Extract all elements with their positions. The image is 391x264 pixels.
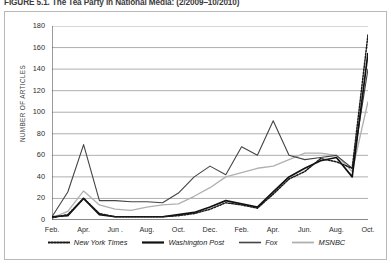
- legend-swatch-msnbc: [292, 239, 314, 246]
- x-tick-label: Jun .: [98, 225, 132, 234]
- x-tick-label: Apr.: [67, 225, 101, 234]
- x-tick-label: Aug.: [319, 225, 353, 234]
- legend-swatch-fox: [239, 239, 261, 246]
- figure-container: FIGURE 5.1. The Tea Party in National Me…: [0, 0, 391, 264]
- x-tick-label: Jun.: [288, 225, 322, 234]
- chart-legend: New York TimesWashington PostFoxMSNBC: [5, 234, 388, 250]
- legend-item: Washington Post: [142, 238, 224, 247]
- legend-item: MSNBC: [292, 238, 345, 247]
- y-tick-label: 160: [19, 44, 45, 52]
- y-tick-label: 180: [19, 22, 45, 30]
- y-tick-label: 80: [19, 130, 45, 138]
- series-line-new-york-times: [52, 35, 368, 218]
- y-tick-label: 120: [19, 87, 45, 95]
- x-tick-label: Oct.: [161, 225, 195, 234]
- legend-label: Fox: [265, 238, 277, 247]
- y-tick-label: 100: [19, 108, 45, 116]
- plot-area: [52, 26, 368, 220]
- x-tick-label: Oct.: [351, 225, 385, 234]
- x-tick-label: Apr.: [256, 225, 290, 234]
- line-chart-svg: [52, 26, 368, 220]
- figure-caption: FIGURE 5.1. The Tea Party in National Me…: [4, 0, 387, 10]
- x-tick-label: Feb.: [225, 225, 259, 234]
- x-tick-label: Aug.: [130, 225, 164, 234]
- y-tick-label: 140: [19, 65, 45, 73]
- chart-box: NUMBER OF ARTICLES 180160140120100806040…: [4, 11, 387, 260]
- y-tick-label: 60: [19, 151, 45, 159]
- y-tick-label: 20: [19, 194, 45, 202]
- series-line-washington-post: [52, 53, 368, 217]
- legend-item: Fox: [239, 238, 277, 247]
- legend-swatch-new-york-times: [48, 239, 70, 246]
- x-tick-label: Dec.: [193, 225, 227, 234]
- legend-label: New York Times: [74, 238, 128, 247]
- y-tick-label: 0: [19, 216, 45, 224]
- series-line-fox: [52, 69, 368, 217]
- legend-label: Washington Post: [168, 238, 224, 247]
- legend-label: MSNBC: [318, 238, 345, 247]
- y-tick-label: 40: [19, 173, 45, 181]
- legend-item: New York Times: [48, 238, 128, 247]
- x-tick-label: Feb.: [35, 225, 69, 234]
- legend-swatch-washington-post: [142, 239, 164, 246]
